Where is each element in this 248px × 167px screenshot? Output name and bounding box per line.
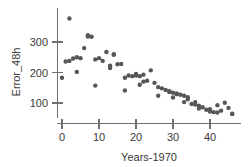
data-point bbox=[78, 56, 82, 60]
data-point bbox=[134, 73, 138, 77]
data-point bbox=[138, 83, 142, 87]
data-point bbox=[130, 74, 134, 78]
data-point bbox=[223, 100, 227, 104]
data-point bbox=[97, 56, 101, 60]
data-point bbox=[215, 103, 219, 107]
data-point bbox=[141, 79, 145, 83]
y-axis-group: 300 200 100 Error_48h bbox=[10, 8, 63, 118]
x-axis-group: 0 10 20 30 40 Years-1970 bbox=[57, 119, 241, 164]
data-point bbox=[171, 95, 175, 99]
scatter-chart-figure: 300 200 100 Error_48h 0 10 20 30 40 Year… bbox=[0, 0, 248, 167]
data-point bbox=[178, 93, 182, 97]
x-axis-title: Years-1970 bbox=[121, 151, 177, 163]
data-point bbox=[126, 73, 130, 77]
data-point bbox=[82, 46, 86, 50]
data-point bbox=[182, 100, 186, 104]
data-point bbox=[141, 72, 145, 76]
data-point bbox=[104, 50, 108, 54]
data-point bbox=[89, 35, 93, 39]
data-point bbox=[63, 59, 67, 63]
data-point bbox=[145, 79, 149, 83]
data-point bbox=[152, 81, 156, 85]
data-point bbox=[175, 92, 179, 96]
data-point bbox=[156, 93, 160, 97]
x-tick-label-40: 40 bbox=[204, 131, 216, 143]
x-tick-label-30: 30 bbox=[167, 131, 179, 143]
data-point bbox=[123, 75, 127, 79]
data-point bbox=[67, 59, 71, 63]
data-point bbox=[226, 106, 230, 110]
data-point bbox=[75, 70, 79, 74]
data-point bbox=[230, 112, 234, 116]
data-point bbox=[167, 90, 171, 94]
data-point bbox=[112, 53, 116, 57]
y-axis-title: Error_48h bbox=[10, 48, 22, 97]
data-point bbox=[200, 105, 204, 109]
data-point bbox=[67, 16, 71, 20]
data-point bbox=[186, 97, 190, 101]
y-tick-label-300: 300 bbox=[30, 36, 48, 48]
data-point bbox=[119, 62, 123, 66]
y-tick-label-200: 200 bbox=[30, 67, 48, 79]
data-point bbox=[60, 75, 64, 79]
x-tick-label-20: 20 bbox=[130, 131, 142, 143]
x-tick-label-10: 10 bbox=[93, 131, 105, 143]
data-point bbox=[101, 59, 105, 63]
x-tick-label-0: 0 bbox=[59, 131, 65, 143]
data-point bbox=[123, 88, 127, 92]
data-point bbox=[219, 108, 223, 112]
data-point bbox=[149, 68, 153, 72]
data-point bbox=[75, 55, 79, 59]
data-point bbox=[93, 83, 97, 87]
data-point bbox=[208, 109, 212, 113]
y-tick-label-100: 100 bbox=[30, 97, 48, 109]
data-points-layer bbox=[60, 16, 235, 116]
plot-canvas: 300 200 100 Error_48h 0 10 20 30 40 Year… bbox=[0, 0, 248, 167]
data-point bbox=[108, 66, 112, 70]
